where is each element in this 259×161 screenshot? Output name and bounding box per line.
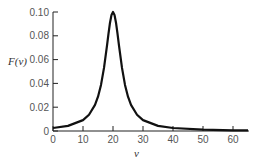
x-tick-label: 0 [50,134,56,145]
y-tick-label: 0.02 [30,102,50,113]
x-tick-label: 10 [77,134,89,145]
x-tick-label: 20 [107,134,119,145]
data-curve [53,12,248,130]
y-tick-label: 0.08 [30,30,50,41]
x-tick-label: 60 [227,134,239,145]
y-tick-label: 0.04 [30,78,50,89]
x-tick-label: 50 [197,134,209,145]
y-tick-label: 0 [43,126,49,137]
y-tick-label: 0.10 [30,7,50,18]
x-axis-label: ν [134,147,139,159]
x-tick-label: 40 [167,134,179,145]
y-tick-label: 0.06 [30,54,50,65]
x-tick-label: 30 [137,134,149,145]
y-axis-ticks: 00.020.040.060.080.10 [30,7,58,137]
y-axis-label: F(ν) [7,55,27,68]
chart: 00.020.040.060.080.10 0102030405060 F(ν)… [0,0,259,161]
